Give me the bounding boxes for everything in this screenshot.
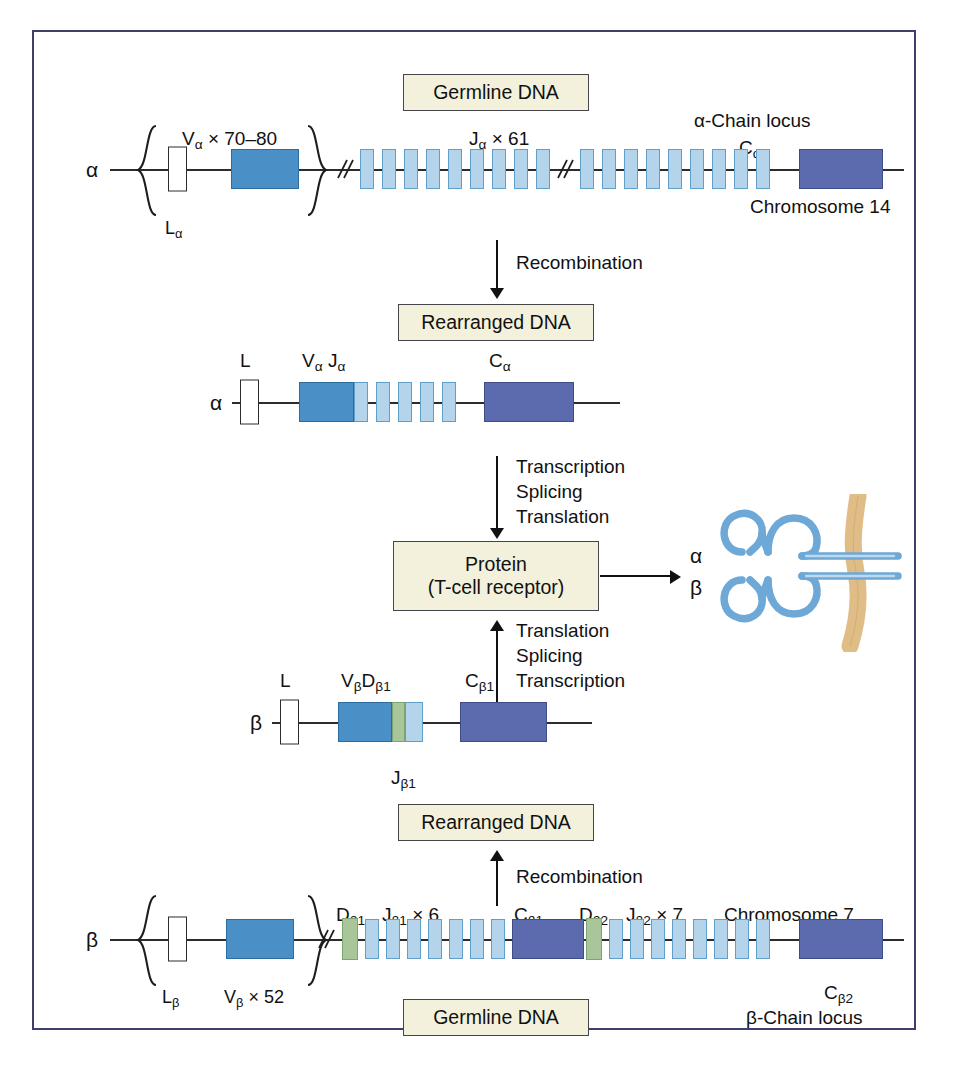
transcription-down-arrow-line: [496, 456, 498, 530]
alpha-germline-chromosome: Chromosome 14: [750, 196, 890, 218]
alpha-germline-leader-label: Lα: [165, 218, 183, 241]
beta-rearranged-j-label: Jβ1: [391, 767, 416, 792]
alpha-rearranged-vj-label: Vα Jα: [302, 350, 345, 375]
alpha-germline-v-segment: [231, 149, 299, 189]
beta-germline-c2-segment: [799, 919, 883, 959]
translation-up-label-3: Transcription: [516, 670, 625, 692]
beta-germline-d1-segment: [342, 918, 358, 960]
protein-label-line1: Protein: [465, 553, 527, 576]
alpha-rearranged-v-segment: [299, 382, 354, 422]
beta-germline-v-segment: [226, 919, 294, 959]
alpha-rearranged-c-segment: [484, 382, 574, 422]
translation-up-arrow-head: [490, 620, 504, 631]
figure-panel: Germline DNA α-Chain locus Cα Vα × 70–80…: [32, 30, 916, 1030]
alpha-rearranged-leader-label: L: [240, 350, 251, 372]
recombination-arrow-bottom-head: [490, 850, 504, 861]
diagram-stage: Germline DNA α-Chain locus Cα Vα × 70–80…: [34, 32, 914, 1028]
beta-germline-v-label: Vβ × 52: [224, 987, 284, 1010]
caption-protein-box: Protein (T-cell receptor): [393, 541, 599, 611]
alpha-germline-leader-segment: [168, 147, 187, 192]
beta-germline-leader-label: Lβ: [162, 987, 179, 1010]
beta-germline-chain-symbol: β: [86, 928, 98, 952]
transcription-down-label-1: Transcription: [516, 456, 625, 478]
beta-rearranged-leader-segment: [280, 700, 299, 745]
alpha-germline-break-mark-1: [333, 155, 357, 183]
beta-rearranged-d-segment: [392, 702, 405, 742]
alpha-rearranged-leader-segment: [240, 380, 259, 425]
t-cell-receptor-illustration: [702, 494, 914, 652]
caption-rearranged-dna-top: Rearranged DNA: [398, 304, 594, 341]
beta-germline-locus-title: β-Chain locus: [746, 1007, 863, 1029]
recombination-arrow-bottom-line: [496, 858, 498, 906]
alpha-germline-break-mark-2: [553, 155, 577, 183]
beta-rearranged-vd-label: VβDβ1: [341, 670, 391, 695]
translation-up-arrow-line: [496, 629, 498, 703]
beta-germline-break-mark: [314, 925, 338, 953]
alpha-germline-chain-symbol: α: [86, 158, 98, 182]
alpha-rearranged-chain-symbol: α: [210, 391, 222, 415]
transcription-down-label-3: Translation: [516, 506, 609, 528]
beta-rearranged-c-label: Cβ1: [465, 670, 494, 695]
beta-germline-leader-segment: [168, 917, 187, 962]
alpha-rearranged-c-label: Cα: [489, 350, 511, 375]
beta-rearranged-leader-label: L: [280, 670, 291, 692]
beta-rearranged-chain-symbol: β: [250, 711, 262, 735]
translation-up-label-2: Splicing: [516, 645, 583, 667]
transcription-down-arrow-head: [490, 528, 504, 539]
recombination-label-top: Recombination: [516, 252, 643, 274]
beta-germline-c1-segment: [512, 919, 584, 959]
caption-germline-dna-top: Germline DNA: [403, 74, 589, 111]
receptor-beta-label: β: [690, 576, 702, 601]
protein-to-receptor-arrow-head: [670, 570, 681, 584]
protein-label-line2: (T-cell receptor): [428, 576, 565, 599]
translation-up-label-1: Translation: [516, 620, 609, 642]
recombination-label-bottom: Recombination: [516, 866, 643, 888]
alpha-germline-c-segment: [799, 149, 883, 189]
recombination-arrow-top-head: [490, 288, 504, 299]
beta-germline-d2-segment: [586, 918, 602, 960]
beta-rearranged-c-segment: [460, 702, 547, 742]
alpha-germline-locus-title: α-Chain locus: [694, 110, 811, 132]
beta-rearranged-v-segment: [338, 702, 392, 742]
beta-germline-c2-label: Cβ2: [824, 982, 853, 1007]
recombination-arrow-top-line: [496, 240, 498, 290]
receptor-alpha-label: α: [690, 544, 702, 569]
beta-rearranged-j-segment: [405, 702, 423, 742]
protein-to-receptor-arrow-line: [600, 575, 672, 577]
caption-rearranged-dna-bottom: Rearranged DNA: [398, 804, 594, 841]
transcription-down-label-2: Splicing: [516, 481, 583, 503]
caption-germline-dna-bottom: Germline DNA: [403, 999, 589, 1036]
